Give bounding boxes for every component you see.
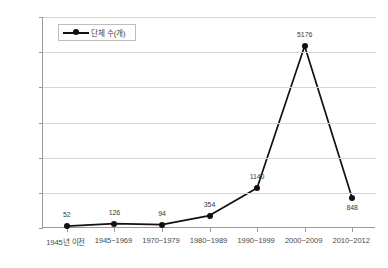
data-point-label: 354	[204, 201, 215, 208]
x-axis-tick-label: 2010~2012	[333, 236, 370, 245]
gridline	[43, 193, 376, 194]
data-point-marker	[207, 213, 213, 219]
y-axis-tick	[39, 17, 43, 18]
gridline	[43, 17, 376, 18]
gridline	[43, 52, 376, 53]
data-point-marker	[64, 223, 70, 229]
x-axis-tick	[210, 228, 211, 232]
data-point-label: 1140	[250, 173, 265, 180]
x-axis-tick-label: 1945~1969	[95, 236, 132, 245]
y-axis-tick	[39, 87, 43, 88]
x-axis-tick	[114, 228, 115, 232]
gridline	[43, 123, 376, 124]
data-point-label: 52	[63, 211, 71, 218]
data-point-marker	[159, 222, 165, 228]
data-point-label: 5176	[297, 31, 312, 38]
x-axis-tick-label: 2000~2009	[285, 236, 322, 245]
x-axis-tick	[352, 228, 353, 232]
gridline	[43, 158, 376, 159]
y-axis-tick	[39, 193, 43, 194]
x-axis-tick-label: 1980~1989	[190, 236, 227, 245]
x-axis-tick-label: 1970~1979	[142, 236, 179, 245]
data-point-label: 126	[109, 209, 120, 216]
legend-label: 단체 수(개)	[91, 27, 125, 38]
x-axis-tick-label: 1990~1999	[237, 236, 274, 245]
x-axis-tick	[305, 228, 306, 232]
data-point-label: 848	[347, 204, 358, 211]
y-axis-tick	[39, 123, 43, 124]
x-axis-labels: 1945년 이전1945~19691970~19791980~19891990~…	[42, 236, 375, 260]
x-axis-tick	[162, 228, 163, 232]
gridline	[43, 87, 376, 88]
y-axis-tick	[39, 158, 43, 159]
data-point-marker	[254, 185, 260, 191]
chart-legend: 단체 수(개)	[58, 24, 136, 41]
x-axis-tick	[257, 228, 258, 232]
y-axis-tick	[39, 228, 43, 229]
data-point-marker	[302, 43, 308, 49]
line-marker-icon	[63, 29, 89, 37]
x-axis-tick-label: 1945년 이전	[46, 236, 85, 247]
data-point-label: 94	[158, 210, 166, 217]
data-point-marker	[111, 221, 117, 227]
chart-container: 0100020003000400050006000 52126943541140…	[0, 0, 388, 268]
y-axis-tick	[39, 52, 43, 53]
plot-area: 521269435411405176848	[42, 17, 375, 228]
